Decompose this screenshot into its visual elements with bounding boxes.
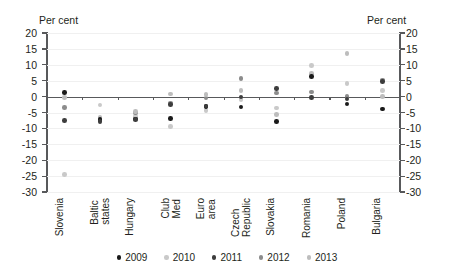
data-point [380,79,385,84]
legend-item[interactable]: 2011 [212,252,242,263]
legend-label: 2011 [220,252,242,263]
data-point [168,124,173,129]
data-point [168,116,173,121]
legend-label: 2010 [173,252,195,263]
y-tick-mark-right [401,176,405,177]
gridline [47,49,400,50]
y-tick-mark-left [42,48,46,49]
data-point [239,105,244,110]
data-point [309,95,314,100]
y-tick-label-left: -10 [22,123,37,133]
y-tick-label-right: -10 [406,123,421,133]
gridline [47,144,400,145]
x-category-label: Poland [337,198,348,229]
y-tick-mark-left [42,191,46,192]
y-tick-mark-right [401,160,405,161]
data-point [274,86,279,91]
y-tick-label-right: 0 [406,92,412,102]
x-axis-tick [294,97,295,100]
legend-item[interactable]: 2013 [307,252,338,263]
x-axis-tick [259,97,260,100]
x-axis-tick [365,97,366,100]
x-axis-tick [224,97,225,100]
data-point [380,107,385,112]
data-point [380,88,385,93]
y-tick-mark-right [401,191,405,192]
plot-area [47,33,400,192]
x-category-label: Romania [302,198,313,238]
y-tick-mark-right [401,128,405,129]
x-category-label: Hungary [125,198,136,236]
legend-label: 2013 [315,252,337,263]
y-tick-label-left: 5 [31,76,37,86]
y-tick-mark-left [42,96,46,97]
y-tick-label-right: 10 [406,60,418,70]
legend-item[interactable]: 2012 [259,252,290,263]
chart-legend: 20092010201120122013 [0,252,454,263]
x-category-label: Slovenia [55,198,66,236]
y-tick-mark-left [42,144,46,145]
y-axis-unit-right: Per cent [367,14,406,26]
y-tick-mark-right [401,144,405,145]
y-tick-label-left: -30 [22,187,37,197]
legend-marker-icon [259,255,263,259]
data-point [98,119,103,124]
data-point [274,106,279,111]
legend-label: 2012 [267,252,289,263]
data-point [309,90,314,95]
legend-marker-icon [212,255,216,259]
y-axis-unit-left: Per cent [39,14,78,26]
y-tick-label-left: -20 [22,155,37,165]
x-axis-tick [118,97,119,100]
y-tick-label-right: -5 [406,108,415,118]
x-category-label: Slovakia [266,198,277,236]
y-tick-label-right: 20 [406,28,418,38]
data-point [345,102,350,107]
y-tick-label-right: -20 [406,155,421,165]
y-tick-label-left: 0 [31,92,37,102]
data-point [345,97,350,102]
data-point [62,105,67,110]
y-tick-mark-left [42,128,46,129]
y-tick-label-left: -25 [22,171,37,181]
y-tick-label-left: -15 [22,139,37,149]
y-tick-mark-left [42,176,46,177]
x-category-label: Czech Republic [231,198,252,237]
data-point [133,109,138,114]
data-point [239,88,244,93]
data-point [168,92,173,97]
data-point [309,74,314,79]
y-tick-mark-left [42,160,46,161]
data-point [274,91,279,96]
legend-label: 2009 [125,252,147,263]
data-point [345,81,350,86]
y-tick-mark-right [401,64,405,65]
data-point [62,172,67,177]
data-point [168,102,173,107]
gridline [47,128,400,129]
y-tick-mark-left [42,112,46,113]
data-point [62,118,67,123]
gridline [47,65,400,66]
y-tick-label-right: -30 [406,187,421,197]
y-tick-mark-right [401,80,405,81]
y-tick-label-left: 15 [25,44,37,54]
data-point [98,103,103,108]
legend-marker-icon [117,255,121,259]
legend-item[interactable]: 2010 [164,252,195,263]
legend-marker-icon [164,255,168,259]
data-point [62,90,67,95]
y-tick-mark-left [42,64,46,65]
legend-marker-icon [307,255,311,259]
scatter-chart: Per cent Per cent 20151050-5-10-15-20-25… [0,0,454,275]
x-axis-tick [188,97,189,100]
legend-item[interactable]: 2009 [117,252,148,263]
y-tick-mark-right [401,112,405,113]
data-point [380,94,385,99]
y-tick-mark-right [401,48,405,49]
gridline [47,192,400,193]
data-point [345,51,350,56]
x-category-label: Club Med [161,198,182,219]
gridline [47,113,400,114]
y-tick-label-left: 10 [25,60,37,70]
